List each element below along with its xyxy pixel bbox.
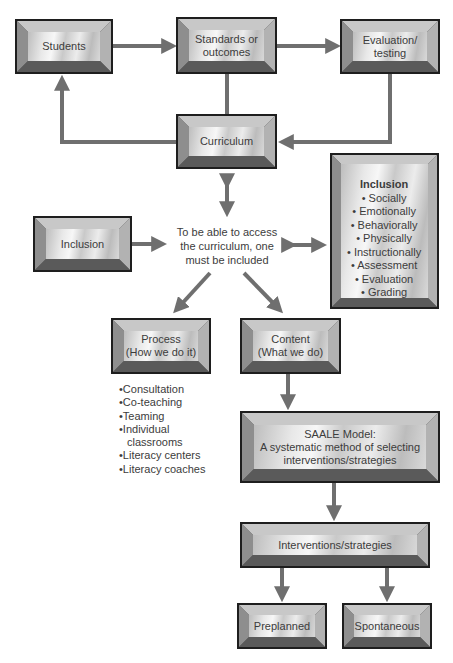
preplanned-box: Preplanned bbox=[237, 603, 327, 649]
evaluation-label-line1: Evaluation/ bbox=[363, 34, 417, 47]
process-box: Process (How we do it) bbox=[111, 318, 211, 374]
spontaneous-box: Spontaneous bbox=[342, 603, 432, 649]
evaluation-label-line2: testing bbox=[374, 47, 406, 60]
inclusion-list: Inclusion Socially Emotionally Behaviora… bbox=[347, 178, 421, 300]
process-method-item: Consultation bbox=[119, 383, 219, 396]
process-methods-list: Consultation Co-teaching Teaming Individ… bbox=[119, 383, 219, 476]
process-method-item: Literacy centers bbox=[119, 449, 219, 462]
arrow-evaluation-to-curriculum bbox=[285, 74, 390, 142]
students-box: Students bbox=[15, 19, 113, 74]
content-label-line1: Content bbox=[271, 333, 310, 346]
inclusion-list-item: Grading bbox=[347, 286, 421, 300]
preplanned-label: Preplanned bbox=[254, 620, 310, 633]
saale-label-line1: SAALE Model: bbox=[304, 428, 376, 441]
standards-box: Standards or outcomes bbox=[176, 17, 277, 74]
inclusion-list-item: Behaviorally bbox=[347, 219, 421, 233]
center-statement: To be able to access the curriculum, one… bbox=[170, 225, 284, 267]
spontaneous-label: Spontaneous bbox=[355, 620, 420, 633]
evaluation-box: Evaluation/ testing bbox=[340, 19, 440, 74]
center-statement-line1: To be able to access bbox=[170, 225, 284, 239]
arrow-center-to-content bbox=[244, 273, 278, 308]
interventions-box: Interventions/strategies bbox=[240, 522, 430, 568]
process-method-item: Co-teaching bbox=[119, 396, 219, 409]
process-method-item: Individual classrooms bbox=[119, 423, 219, 450]
center-statement-line3: must be included bbox=[170, 253, 284, 267]
curriculum-box: Curriculum bbox=[176, 114, 277, 169]
students-label: Students bbox=[42, 40, 85, 53]
interventions-label: Interventions/strategies bbox=[278, 539, 392, 552]
inclusion-list-item: Instructionally bbox=[347, 246, 421, 260]
saale-label-line2: A systematic method of selecting bbox=[260, 441, 420, 454]
inclusion-list-box: Inclusion Socially Emotionally Behaviora… bbox=[330, 153, 439, 309]
standards-label-line2: outcomes bbox=[203, 46, 251, 59]
inclusion-list-item: Evaluation bbox=[347, 273, 421, 287]
process-method-item: Teaming bbox=[119, 410, 219, 423]
arrow-curriculum-to-students bbox=[62, 82, 176, 142]
inclusion-list-item: Socially bbox=[347, 192, 421, 206]
content-label-line2: (What we do) bbox=[258, 346, 323, 359]
process-label-line2: (How we do it) bbox=[126, 346, 196, 359]
process-method-item: Literacy coaches bbox=[119, 463, 219, 476]
arrow-center-to-process bbox=[178, 273, 210, 308]
saale-label-line3: interventions/strategies bbox=[283, 454, 396, 467]
curriculum-label: Curriculum bbox=[200, 135, 253, 148]
content-box: Content (What we do) bbox=[240, 318, 341, 374]
inclusion-list-title: Inclusion bbox=[347, 178, 421, 192]
inclusion-list-item: Physically bbox=[347, 232, 421, 246]
process-label-line1: Process bbox=[141, 333, 181, 346]
center-statement-line2: the curriculum, one bbox=[170, 239, 284, 253]
inclusion-label: Inclusion bbox=[61, 238, 104, 251]
inclusion-list-item: Assessment bbox=[347, 259, 421, 273]
inclusion-box: Inclusion bbox=[33, 216, 132, 272]
standards-label-line1: Standards or bbox=[195, 33, 258, 46]
saale-model-box: SAALE Model: A systematic method of sele… bbox=[240, 411, 440, 483]
inclusion-list-item: Emotionally bbox=[347, 205, 421, 219]
